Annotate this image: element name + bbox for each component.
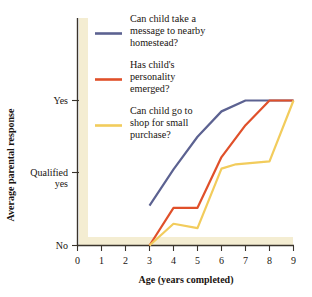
y-tick-label-yes: Yes (53, 95, 68, 106)
y-axis-shading-band (79, 18, 88, 245)
x-tick-label-0: 0 (75, 255, 80, 266)
x-tick-label-9: 9 (291, 255, 296, 266)
legend-label-0-line-2: homestead? (130, 37, 179, 48)
legend-label-1-line-2: emerged? (130, 83, 170, 94)
legend-label-2-line-0: Can child go to (130, 105, 193, 116)
x-axis-ticks (78, 246, 294, 252)
x-axis-title: Age (years completed) (139, 274, 234, 286)
x-tick-label-8: 8 (267, 255, 272, 266)
x-tick-labels: 0 1 2 3 4 5 6 7 8 9 (75, 255, 296, 266)
x-tick-label-1: 1 (99, 255, 104, 266)
legend-label-0-line-0: Can child take a (130, 13, 196, 24)
x-tick-label-7: 7 (243, 255, 248, 266)
y-axis-title: Average parental response (5, 108, 16, 221)
y-tick-label-qualified-yes: yes (55, 178, 68, 189)
legend-label-0-line-1: message to nearby (130, 25, 206, 36)
x-axis-shading-band (79, 237, 293, 245)
legend-label-1-line-0: Has child's (130, 59, 175, 70)
chart-container: 0 1 2 3 4 5 6 7 8 9 Yes Qualified yes No… (0, 0, 312, 297)
y-tick-labels: Yes Qualified yes No (30, 95, 68, 251)
chart-svg: 0 1 2 3 4 5 6 7 8 9 Yes Qualified yes No… (0, 0, 312, 297)
legend-label-2-line-2: purchase? (130, 129, 171, 140)
y-tick-label-qualified: Qualified (30, 167, 68, 178)
x-tick-label-2: 2 (123, 255, 128, 266)
y-tick-label-no: No (56, 240, 68, 251)
legend-label-2-line-1: shop for small (130, 117, 188, 128)
legend-label-1-line-1: personality (130, 71, 176, 82)
legend: Can child take a message to nearby homes… (95, 13, 206, 140)
x-tick-label-3: 3 (147, 255, 152, 266)
x-tick-label-6: 6 (219, 255, 224, 266)
x-tick-label-4: 4 (171, 255, 176, 266)
x-tick-label-5: 5 (195, 255, 200, 266)
